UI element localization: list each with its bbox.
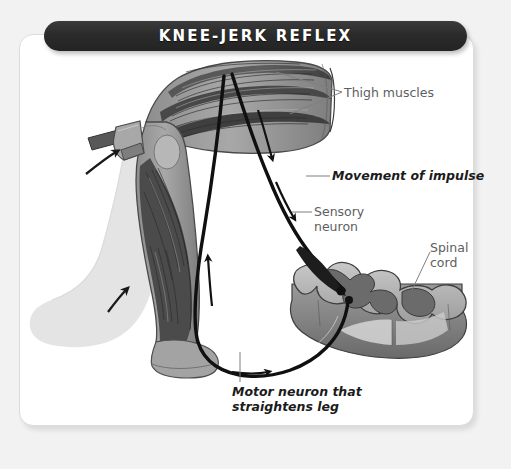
title-banner: KNEE-JERK REFLEX	[44, 21, 467, 51]
label-sensory-neuron: Sensory neuron	[314, 205, 364, 235]
hammer-swing-arrow	[86, 152, 116, 174]
page-title: KNEE-JERK REFLEX	[159, 27, 353, 45]
label-motor-neuron: Motor neuron that straightens leg	[232, 385, 362, 415]
label-thigh-muscles: Thigh muscles	[344, 86, 434, 101]
label-spinal-cord: Spinal cord	[430, 241, 468, 271]
label-movement-of-impulse: Movement of impulse	[332, 169, 484, 184]
lower-leg	[136, 122, 218, 378]
page-root: KNEE-JERK REFLEX	[0, 0, 511, 469]
reflex-hammer	[88, 121, 144, 160]
